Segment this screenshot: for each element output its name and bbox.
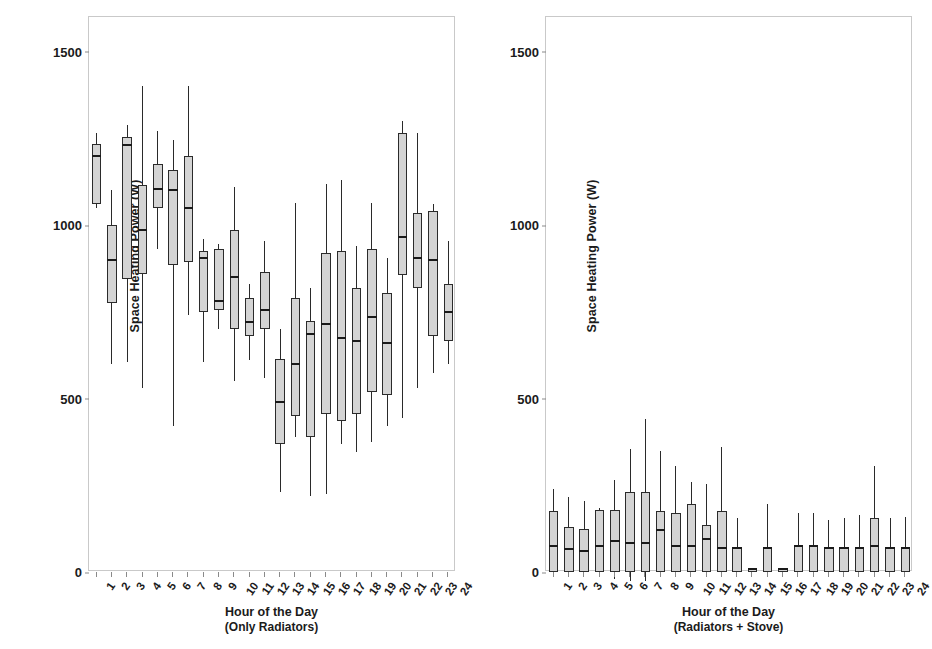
whisker-upper — [310, 288, 311, 321]
x-tick-mark — [126, 572, 127, 577]
x-tick-label: 7 — [195, 580, 209, 592]
median-line — [671, 545, 680, 547]
x-tick-mark — [858, 572, 859, 577]
whisker-upper — [645, 419, 646, 492]
whisker-upper — [142, 86, 143, 185]
x-tick-mark — [249, 572, 250, 577]
x-tick-mark — [904, 572, 905, 577]
median-line — [413, 257, 422, 259]
x-tick-mark — [843, 572, 844, 577]
x-tick-label: 22 — [884, 580, 901, 597]
whisker-upper — [691, 482, 692, 505]
boxplot-box — [855, 17, 864, 572]
x-tick-mark — [660, 572, 661, 577]
y-tick-label: 500 — [517, 391, 546, 406]
whisker-lower — [188, 262, 189, 316]
median-line — [367, 316, 376, 318]
boxplot-box — [732, 17, 741, 572]
x-tick-label: 11 — [259, 580, 276, 597]
median-line — [168, 189, 177, 191]
x-tick-label: 5 — [165, 580, 179, 592]
median-line — [839, 547, 848, 549]
box-iqr — [291, 298, 300, 416]
median-line — [641, 542, 650, 544]
boxplot-box — [138, 17, 147, 572]
whisker-upper — [798, 513, 799, 546]
boxplot-box — [184, 17, 193, 572]
whisker-upper — [127, 125, 128, 137]
box-iqr — [885, 548, 894, 572]
y-tick-label: 1500 — [53, 44, 89, 59]
median-line — [245, 321, 254, 323]
boxplot-box — [321, 17, 330, 572]
boxplot-box — [444, 17, 453, 572]
boxplot-box — [337, 17, 346, 572]
x-tick-mark — [706, 572, 707, 577]
boxplot-box — [702, 17, 711, 572]
box-iqr — [92, 144, 101, 205]
x-tick-mark — [386, 572, 387, 577]
whisker-upper — [326, 184, 327, 253]
x-tick-label: 6 — [637, 580, 651, 592]
x-tick-mark — [371, 572, 372, 577]
box-iqr — [763, 548, 772, 572]
x-tick-mark — [233, 572, 234, 577]
whisker-lower — [142, 274, 143, 388]
boxplot-box — [839, 17, 848, 572]
median-line — [809, 545, 818, 547]
whisker-lower — [203, 312, 204, 362]
boxplot-box — [625, 17, 634, 572]
x-tick-label: 10 — [701, 580, 718, 597]
x-tick-mark — [187, 572, 188, 577]
y-tick-label: 1000 — [510, 218, 546, 233]
whisker-upper — [173, 140, 174, 169]
box-iqr — [122, 137, 131, 279]
whisker-lower — [310, 437, 311, 496]
whisker-upper — [905, 517, 906, 548]
median-line — [595, 545, 604, 547]
x-tick-mark — [401, 572, 402, 577]
x-tick-label: 3 — [134, 580, 148, 592]
whisker-lower — [387, 395, 388, 426]
median-line — [92, 155, 101, 157]
x-tick-label: 21 — [412, 580, 429, 597]
whisker-lower — [280, 444, 281, 493]
x-tick-mark — [767, 572, 768, 577]
median-line — [748, 568, 757, 570]
x-tick-mark — [310, 572, 311, 577]
median-line — [214, 300, 223, 302]
boxplot-box — [168, 17, 177, 572]
boxplot-box — [763, 17, 772, 572]
box-iqr — [245, 298, 254, 336]
x-tick-label: 19 — [381, 580, 398, 597]
x-tick-label: 9 — [683, 580, 697, 592]
median-line — [428, 259, 437, 261]
median-line — [230, 276, 239, 278]
whisker-lower — [234, 329, 235, 381]
whisker-upper — [341, 180, 342, 251]
box-iqr — [809, 546, 818, 572]
y-tick-label: 1500 — [510, 44, 546, 59]
box-iqr — [260, 272, 269, 329]
box-iqr — [321, 253, 330, 414]
x-tick-mark — [157, 572, 158, 577]
median-line — [778, 568, 787, 570]
box-iqr — [855, 548, 864, 572]
median-line — [870, 545, 879, 547]
median-line — [824, 547, 833, 549]
whisker-upper — [660, 451, 661, 512]
x-axis-title-right: Hour of the Day (Radiators + Stove) — [545, 605, 912, 635]
median-line — [549, 545, 558, 547]
box-iqr — [199, 251, 208, 312]
median-line — [337, 337, 346, 339]
box-iqr — [413, 213, 422, 288]
x-tick-mark — [828, 572, 829, 577]
box-iqr — [367, 249, 376, 391]
boxplot-box — [809, 17, 818, 572]
whisker-lower — [295, 416, 296, 437]
whisker-upper — [553, 489, 554, 512]
whisker-upper — [568, 497, 569, 526]
boxplot-box — [291, 17, 300, 572]
boxplot-box — [214, 17, 223, 572]
x-tick-mark — [599, 572, 600, 577]
